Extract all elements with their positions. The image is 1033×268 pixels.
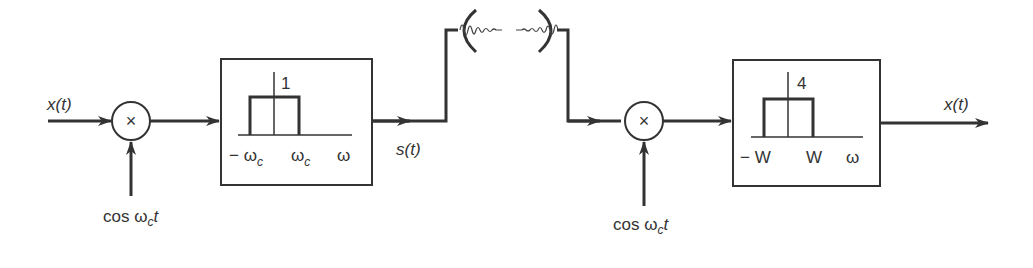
rx-carrier-label: cos ωct [613,215,669,237]
am-modulation-diagram: x(t) × cos ωct 1 − ωc ωc ω s(t) × cos [0,0,1033,268]
s-signal-label: s(t) [396,140,421,159]
antenna-to-rx-wire [557,30,621,121]
rx-mixer: × [625,102,663,140]
rx-filter-axis-label: ω [846,148,859,167]
rx-filter-gain: 4 [797,74,806,93]
rx-antenna-icon [516,10,558,52]
tx-bandpass-filter: 1 − ωc ωc ω [221,59,372,185]
multiply-icon: × [126,111,137,131]
rx-lowpass-filter: 4 − W W ω [733,60,880,186]
rx-filter-pos-cutoff: W [806,148,822,167]
tx-carrier-label: cos ωct [103,207,159,229]
tx-to-antenna-wire [372,30,458,121]
tx-filter-axis-label: ω [337,146,350,165]
input-label: x(t) [46,95,72,114]
multiply-icon: × [639,111,650,131]
tx-mixer: × [112,102,150,140]
tx-antenna-icon [460,10,502,52]
output-label: x(t) [943,95,969,114]
tx-filter-gain: 1 [281,74,290,93]
rx-filter-neg-cutoff: − W [740,148,771,167]
